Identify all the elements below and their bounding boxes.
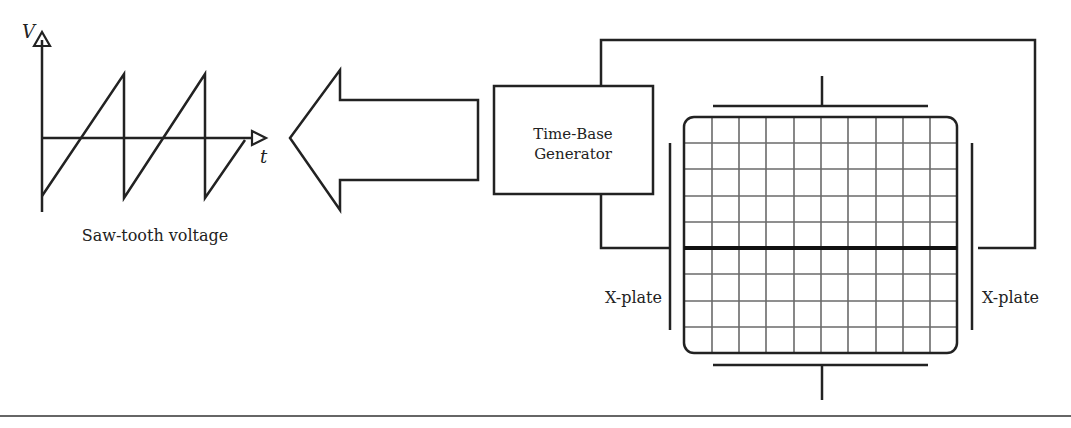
oscilloscope-screen xyxy=(684,117,957,353)
generator-label-line1: Time-Base xyxy=(533,125,613,143)
wire-top xyxy=(601,40,1035,248)
v-axis-label: V xyxy=(22,21,37,42)
t-axis-arrow-icon xyxy=(252,131,266,145)
generator-label-line2: Generator xyxy=(534,145,613,163)
sawtooth-caption: Saw-tooth voltage xyxy=(82,226,229,245)
x-plate-right-label: X-plate xyxy=(982,288,1039,307)
sawtooth-waveform xyxy=(42,74,245,198)
t-axis-label: t xyxy=(260,146,268,167)
x-plate-left-label: X-plate xyxy=(605,288,662,307)
wire-bottom xyxy=(601,194,670,248)
oscilloscope-timebase-diagram: V t Saw-tooth voltage Time-Base Generato… xyxy=(0,0,1071,428)
big-arrow-icon xyxy=(290,70,478,210)
